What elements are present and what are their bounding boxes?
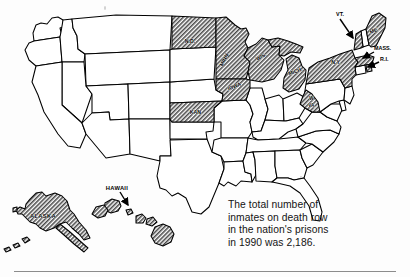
hawaii-lanai — [146, 217, 157, 226]
alaska-inset — [4, 192, 90, 252]
bottom-divider — [14, 271, 396, 272]
map-figure: N.D. MINN. WIS. MICH. IOWA KAN. N.Y. W. … — [0, 0, 410, 277]
state-nebraska — [170, 79, 223, 103]
callout-arrow-hawaii — [120, 192, 128, 205]
state-new-jersey — [344, 86, 354, 104]
label-north-dakota: N.D. — [185, 38, 196, 44]
state-south-dakota — [170, 47, 216, 82]
label-west-virginia-line2: VA. — [308, 103, 315, 108]
scan-speck-2 — [300, 176, 302, 178]
state-oregon — [25, 37, 62, 66]
hawaii-inset — [92, 199, 174, 246]
alaska-aleutian-1 — [22, 237, 30, 243]
state-arizona — [82, 112, 130, 158]
callout-label-vermont: VT. — [336, 11, 344, 17]
callout-label-hawaii: HAWAII — [106, 185, 129, 191]
label-west-virginia-line1: W. — [309, 96, 314, 101]
state-colorado — [128, 82, 170, 119]
hawaii-oahu — [92, 205, 108, 218]
hawaii-molokai — [126, 209, 133, 215]
state-montana — [72, 15, 172, 54]
callout-label-massachusetts: MASS. — [374, 45, 392, 51]
map-caption: The total number of inmates on death row… — [228, 199, 393, 249]
label-alaska: ALASKA — [30, 213, 56, 219]
state-ohio — [283, 93, 305, 121]
label-new-york: N.Y. — [331, 59, 341, 65]
state-vermont — [354, 31, 363, 50]
scan-speck-1 — [104, 6, 106, 10]
hawaii-bigisland — [151, 224, 174, 246]
caption-line-2: inmates on death row — [228, 212, 393, 225]
caption-line-4: in 1990 was 2,186. — [228, 237, 393, 250]
state-north-dakota — [172, 16, 216, 49]
hawaii-maui — [136, 214, 146, 223]
alaska-aleutian-3 — [4, 247, 11, 252]
caption-line-1: The total number of — [228, 199, 393, 212]
callout-arrow-vermont — [340, 19, 353, 38]
state-new-mexico — [129, 119, 171, 161]
caption-line-3: in the nation's prisons — [228, 224, 393, 237]
state-alabama — [253, 151, 277, 182]
callout-label-rhode-island: R.I. — [380, 56, 389, 62]
alaska-aleutian-2 — [13, 243, 20, 248]
state-minnesota — [216, 17, 250, 79]
label-kansas: KAN. — [190, 109, 203, 115]
state-wyoming — [85, 50, 170, 86]
alaska-island-1 — [13, 207, 17, 212]
state-indiana — [265, 95, 284, 121]
state-missouri — [214, 100, 253, 138]
